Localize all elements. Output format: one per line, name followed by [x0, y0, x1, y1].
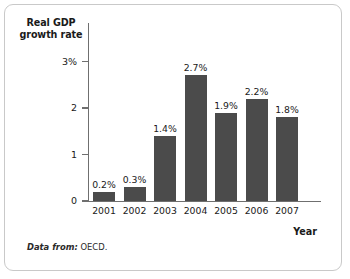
bar	[276, 117, 298, 201]
bar-value-label: 2.2%	[237, 87, 277, 96]
y-axis-tick	[82, 200, 89, 201]
y-axis-title: Real GDP growth rate	[19, 17, 83, 40]
y-axis-line	[88, 23, 89, 202]
y-axis-tick-label: 3%	[31, 57, 77, 67]
chart-figure-panel: Real GDP growth rate 0123% 0.2%20010.3%2…	[4, 4, 342, 271]
x-axis-title: Year	[271, 227, 317, 237]
bar	[185, 75, 207, 201]
bar-value-label: 1.8%	[267, 105, 307, 114]
bar-chart-plot: Real GDP growth rate 0123% 0.2%20010.3%2…	[5, 5, 342, 271]
x-axis-line	[88, 201, 321, 202]
bar-value-label: 0.3%	[115, 175, 155, 184]
y-axis-tick-label: 0	[31, 196, 77, 206]
x-axis-category-label: 2007	[267, 206, 307, 215]
y-axis-tick-label-wrap: 3%	[27, 57, 77, 67]
bar	[154, 136, 176, 201]
y-axis-tick	[82, 107, 89, 108]
y-axis-tick	[82, 61, 89, 62]
bar	[246, 99, 268, 201]
y-axis-tick-label: 2	[31, 103, 77, 113]
bar	[93, 192, 115, 201]
bar-value-label: 1.9%	[206, 101, 246, 110]
y-axis-tick-label-wrap: 1	[27, 150, 77, 160]
y-axis-tick	[82, 154, 89, 155]
y-axis-tick-label: 1	[31, 150, 77, 160]
bar	[124, 187, 146, 201]
bar	[215, 113, 237, 201]
bar-value-label: 1.4%	[145, 124, 185, 133]
y-axis-tick-label-wrap: 2	[27, 103, 77, 113]
bar-value-label: 2.7%	[176, 63, 216, 72]
source-caption-value: OECD.	[80, 242, 107, 252]
source-caption-prefix: Data from:	[27, 242, 78, 252]
source-caption: Data from: OECD.	[27, 243, 107, 251]
y-axis-tick-label-wrap: 0	[27, 196, 77, 206]
